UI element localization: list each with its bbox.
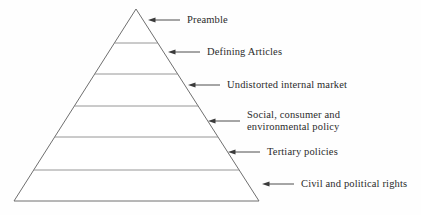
callout-arrow-4 — [208, 118, 240, 123]
tier-label-line: environmental policy — [247, 121, 340, 133]
callout-arrow-5 — [228, 149, 260, 154]
arrow-head-icon — [148, 17, 156, 22]
tier-label-2: Defining Articles — [207, 46, 282, 58]
tier-label-6: Civil and political rights — [301, 178, 407, 190]
tier-label-line: Civil and political rights — [301, 178, 407, 190]
tier-label-3: Undistorted internal market — [227, 79, 347, 91]
callout-arrow-6 — [262, 181, 294, 186]
tier-label-4: Social, consumer andenvironmental policy — [247, 109, 340, 132]
callout-arrow-2 — [168, 49, 200, 54]
callout-arrow-3 — [188, 82, 220, 87]
tier-label-line: Tertiary policies — [267, 146, 338, 158]
arrow-head-icon — [188, 82, 196, 87]
tier-label-line: Undistorted internal market — [227, 79, 347, 91]
pyramid-triangle-outline — [14, 9, 259, 201]
callout-arrow-1 — [148, 17, 180, 22]
tier-label-line: Preamble — [187, 14, 228, 26]
tier-label-line: Social, consumer and — [247, 109, 340, 121]
tier-label-line: Defining Articles — [207, 46, 282, 58]
pyramid-diagram: PreambleDefining ArticlesUndistorted int… — [0, 0, 421, 215]
pyramid-outline — [14, 9, 259, 201]
tier-label-1: Preamble — [187, 14, 228, 26]
arrow-head-icon — [168, 49, 176, 54]
arrow-head-icon — [262, 181, 270, 186]
tier-label-5: Tertiary policies — [267, 146, 338, 158]
